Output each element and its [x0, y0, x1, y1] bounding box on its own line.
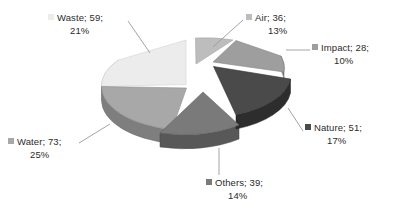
slice-label-waste-line1: Waste; 59;: [57, 12, 103, 23]
slice-label-others[interactable]: Others; 39; 14%: [206, 177, 263, 202]
slice-label-nature[interactable]: Nature; 51; 17%: [305, 122, 362, 147]
leader-line-waste: [128, 21, 150, 53]
slice-label-others-line1: Others; 39;: [215, 177, 263, 188]
slice-marker-water: [8, 138, 14, 144]
slice-label-waste[interactable]: Waste; 59; 21%: [48, 12, 103, 37]
slice-label-water[interactable]: Water; 73; 25%: [8, 136, 61, 161]
slice-label-impact-line1: Impact; 28;: [321, 42, 369, 53]
slice-marker-impact: [312, 44, 318, 50]
slice-label-impact[interactable]: Impact; 28; 10%: [312, 42, 369, 67]
slice-label-air-line1: Air; 36;: [255, 12, 286, 23]
slice-marker-others: [206, 179, 212, 185]
slice-marker-waste: [48, 14, 54, 20]
slice-label-others-line2: 14%: [206, 190, 263, 203]
slice-marker-air: [246, 14, 252, 20]
slice-top-waste[interactable]: [101, 40, 186, 87]
slice-label-water-line2: 25%: [8, 149, 61, 162]
leader-line-water: [79, 124, 110, 143]
slice-label-air[interactable]: Air; 36; 13%: [246, 12, 287, 37]
leader-line-nature: [288, 108, 303, 131]
slice-marker-nature: [305, 124, 311, 130]
slice-label-nature-line2: 17%: [305, 135, 362, 148]
slice-label-impact-line2: 10%: [312, 55, 369, 68]
slice-label-waste-line2: 21%: [48, 25, 103, 38]
slice-label-water-line1: Water; 73;: [17, 136, 61, 147]
pie-chart: Waste; 59; 21% Air; 36; 13% Impact; 28; …: [0, 0, 394, 211]
slice-label-nature-line1: Nature; 51;: [314, 122, 362, 133]
slice-label-air-line2: 13%: [246, 25, 287, 38]
